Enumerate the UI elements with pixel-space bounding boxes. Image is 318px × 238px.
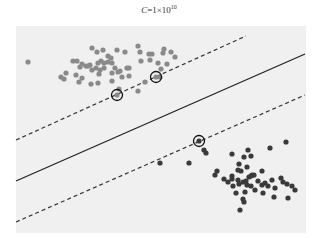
- scatter-plot: [0, 0, 318, 238]
- point-class-a: [96, 71, 101, 76]
- point-class-b: [212, 172, 217, 177]
- point-class-a: [126, 65, 131, 70]
- point-class-b: [241, 154, 246, 159]
- point-class-a: [122, 49, 127, 54]
- point-class-b: [285, 195, 290, 200]
- support-vector-point: [196, 138, 201, 143]
- point-class-b: [249, 172, 254, 177]
- point-class-a: [63, 70, 68, 75]
- point-class-b: [242, 189, 247, 194]
- point-class-a: [76, 79, 81, 84]
- point-class-a: [114, 47, 119, 52]
- point-class-a: [137, 49, 142, 54]
- point-class-a: [172, 54, 177, 59]
- point-class-b: [292, 187, 297, 192]
- point-class-a: [61, 76, 66, 81]
- point-class-b: [269, 177, 274, 182]
- point-class-a: [164, 61, 169, 66]
- point-class-a: [147, 57, 152, 62]
- point-class-a: [119, 74, 124, 79]
- point-class-b: [230, 183, 235, 188]
- point-class-b: [233, 190, 238, 195]
- plot-area: [16, 26, 306, 233]
- point-class-a: [109, 78, 114, 83]
- point-class-a: [95, 80, 100, 85]
- point-class-a: [101, 65, 106, 70]
- point-class-a: [138, 58, 143, 63]
- point-class-b: [271, 194, 276, 199]
- point-class-a: [109, 60, 114, 65]
- point-class-b: [267, 145, 272, 150]
- point-class-a: [126, 73, 131, 78]
- point-class-b: [260, 190, 265, 195]
- point-class-b: [248, 183, 253, 188]
- point-class-a: [88, 81, 93, 86]
- point-class-b: [229, 151, 234, 156]
- point-class-a: [73, 72, 78, 77]
- point-class-a: [168, 49, 173, 54]
- point-class-b: [283, 139, 288, 144]
- point-class-b: [236, 181, 241, 186]
- point-class-a: [94, 49, 99, 54]
- point-class-a: [77, 64, 82, 69]
- point-class-a: [155, 60, 160, 65]
- point-class-b: [186, 160, 191, 165]
- point-class-a: [161, 46, 166, 51]
- point-class-b: [284, 181, 289, 186]
- point-class-b: [265, 183, 270, 188]
- point-class-a: [142, 79, 147, 84]
- point-class-b: [244, 164, 249, 169]
- point-class-a: [87, 62, 92, 67]
- point-class-a: [25, 59, 30, 64]
- point-class-b: [245, 147, 250, 152]
- point-class-a: [74, 58, 79, 63]
- point-class-a: [135, 43, 140, 48]
- point-class-b: [237, 207, 242, 212]
- point-class-a: [135, 88, 140, 93]
- point-class-b: [157, 160, 162, 165]
- point-class-b: [241, 199, 246, 204]
- point-class-a: [149, 51, 154, 56]
- point-class-b: [248, 153, 253, 158]
- point-class-b: [252, 187, 257, 192]
- point-class-b: [203, 150, 208, 155]
- point-class-a: [109, 70, 114, 75]
- point-class-b: [238, 168, 243, 173]
- support-vector-point: [114, 92, 119, 97]
- point-class-b: [272, 185, 277, 190]
- point-class-a: [158, 66, 163, 71]
- point-class-b: [255, 178, 260, 183]
- point-class-a: [89, 45, 94, 50]
- point-class-b: [236, 161, 241, 166]
- point-class-a: [117, 68, 122, 73]
- point-class-b: [225, 179, 230, 184]
- point-class-b: [259, 168, 264, 173]
- point-class-a: [100, 47, 105, 52]
- support-vector-point: [153, 74, 158, 79]
